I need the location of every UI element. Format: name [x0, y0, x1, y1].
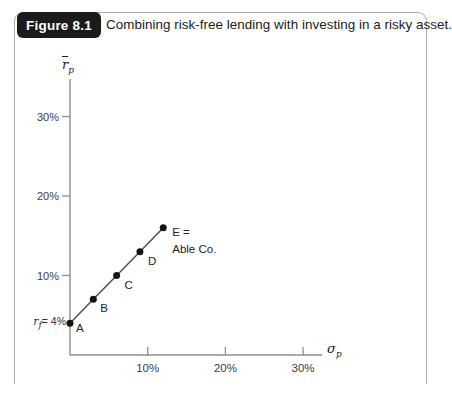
point-annotation-E-line1: E = [172, 226, 190, 238]
point-label-C: C [125, 279, 133, 291]
risk-free-rate-value: = 4% [42, 315, 66, 327]
x-axis-label-symbol: σ [327, 341, 336, 356]
x-tick-label: 30% [292, 362, 315, 374]
point-annotation-E-line2: Able Co. [172, 243, 216, 255]
y-tick-label: 30% [37, 111, 59, 123]
x-tick-label: 10% [136, 362, 159, 374]
point-label-A: A [76, 322, 84, 334]
x-axis-label: σp [327, 341, 342, 359]
risk-free-rate-label: rf= 4% [33, 315, 66, 330]
y-tick-label: 10% [37, 270, 59, 282]
y-axis-label-subscript: p [68, 65, 74, 75]
point-label-D: D [148, 255, 156, 267]
data-point-D [136, 248, 143, 255]
data-point-A [67, 320, 74, 327]
data-point-E [160, 224, 167, 231]
y-tick-label: 20% [37, 190, 59, 202]
data-point-C [113, 272, 120, 279]
x-axis-label-subscript: p [336, 349, 342, 359]
x-tick-label: 20% [214, 362, 237, 374]
data-point-B [90, 296, 97, 303]
point-label-B: B [100, 302, 108, 314]
y-axis-label: rp [62, 57, 74, 75]
